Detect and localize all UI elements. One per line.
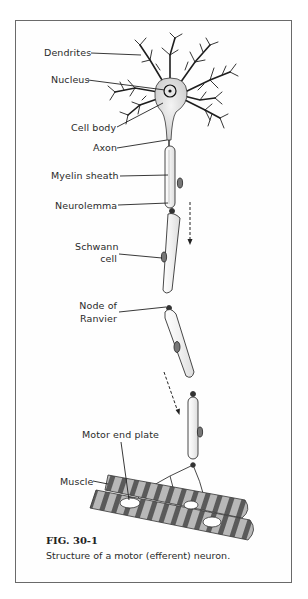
neuron-illustration	[0, 0, 308, 599]
label-node-of-ranvier-line1: Node of	[70, 300, 117, 311]
label-dendrites: Dendrites	[44, 47, 91, 58]
axon-segments	[161, 140, 202, 467]
figure-number: FIG. 30-1	[46, 535, 98, 546]
label-motor-end-plate: Motor end plate	[82, 429, 159, 440]
label-cell-body: Cell body	[71, 122, 116, 133]
label-nucleus: Nucleus	[51, 74, 90, 85]
label-schwann-cell-line1: Schwann	[75, 241, 117, 252]
label-muscle: Muscle	[60, 476, 93, 487]
label-node-of-ranvier-line2: Ranvier	[70, 313, 117, 324]
label-neurolemma: Neurolemma	[55, 200, 117, 211]
label-schwann-cell-line2: cell	[75, 253, 117, 264]
muscle-fibers	[90, 475, 254, 540]
label-myelin-sheath: Myelin sheath	[51, 170, 119, 181]
label-axon: Axon	[93, 142, 117, 153]
figure-caption: Structure of a motor (efferent) neuron.	[46, 550, 230, 561]
